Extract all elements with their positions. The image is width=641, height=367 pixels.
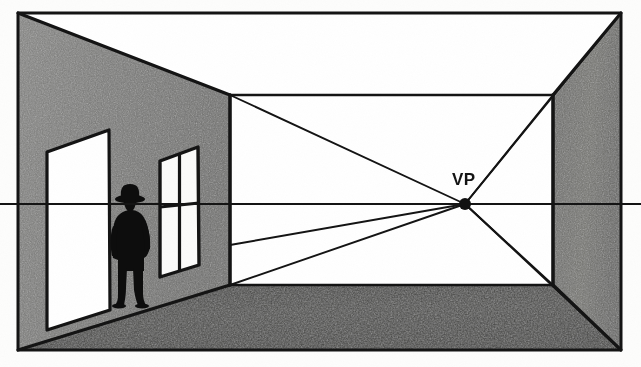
vanishing-point-label: VP <box>452 170 476 190</box>
paper-grain-overlay <box>0 0 641 367</box>
perspective-illustration: VP <box>0 0 641 367</box>
perspective-drawing-svg <box>0 0 641 367</box>
